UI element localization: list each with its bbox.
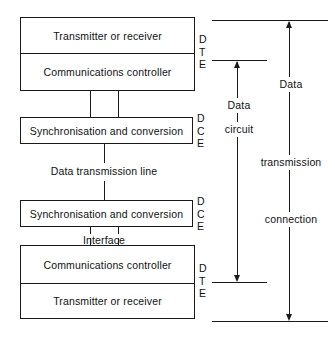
side-label-line: D — [197, 112, 205, 125]
bracket-data-transmission-bottom-tick — [212, 321, 328, 322]
bracket-data-circuit-bottom-tick — [212, 282, 267, 283]
side-label-line: E — [199, 58, 207, 71]
connector-interface-lower-right — [118, 238, 119, 245]
connector-interface-upper-left — [90, 227, 91, 234]
bracket-data-transmission-line-1 — [289, 22, 290, 77]
side-label-line: T — [199, 275, 207, 288]
bracket-data-transmission-line-3 — [289, 170, 290, 212]
cell-label: Transmitter or receiver — [53, 30, 162, 42]
label-data-transmission-line: Data transmission line — [28, 165, 180, 177]
side-label-line: T — [199, 46, 207, 59]
side-label-line: C — [197, 208, 205, 221]
block-dte-bottom: Communications controller Transmitter or… — [20, 245, 195, 319]
cell-transmitter-or-receiver-bottom: Transmitter or receiver — [21, 283, 194, 318]
connector-interface-upper-right — [118, 227, 119, 234]
cell-label: Communications controller — [43, 66, 171, 78]
side-label-line: D — [197, 195, 205, 208]
cell-communications-controller-top: Communications controller — [21, 53, 194, 90]
bracket-data-circuit-bottom-arrowhead — [234, 275, 240, 282]
connector-dte-to-dce-right — [118, 91, 119, 117]
side-label-line: C — [197, 125, 205, 138]
connector-transmission-line-upper — [104, 144, 105, 163]
bracket-data-transmission-line-4 — [289, 227, 290, 315]
side-label-dte-top: D T E — [199, 33, 207, 71]
side-label-line: E — [197, 220, 205, 233]
bracket-data-transmission-line-2 — [289, 92, 290, 155]
cell-label: Communications controller — [43, 259, 171, 271]
cell-synchronisation-and-conversion-bottom: Synchronisation and conversion — [21, 201, 192, 226]
block-dce-top: Synchronisation and conversion — [20, 117, 193, 144]
side-label-dce-bottom: D C E — [197, 195, 205, 233]
cell-label: Synchronisation and conversion — [30, 125, 183, 137]
bracket-data-transmission-label-line-2: transmission — [254, 155, 328, 169]
bracket-data-circuit-line-upper — [237, 62, 238, 98]
side-label-line: E — [197, 137, 205, 150]
connector-transmission-line-lower — [104, 181, 105, 200]
side-label-line: D — [199, 33, 207, 46]
bracket-data-transmission-bottom-arrowhead — [286, 314, 292, 321]
cell-synchronisation-and-conversion-top: Synchronisation and conversion — [21, 118, 192, 143]
block-dce-bottom: Synchronisation and conversion — [20, 200, 193, 227]
cell-communications-controller-bottom: Communications controller — [21, 246, 194, 283]
bracket-data-transmission-top-tick — [212, 20, 328, 21]
bracket-data-circuit-label-line-1: Data — [213, 98, 265, 112]
cell-transmitter-or-receiver-top: Transmitter or receiver — [21, 18, 194, 53]
bracket-data-transmission-label-line-1: Data — [264, 77, 318, 91]
bracket-data-circuit-label-line-2: circuit — [213, 122, 265, 136]
bracket-data-circuit-line-middle — [237, 113, 238, 122]
block-dte-top: Transmitter or receiver Communications c… — [20, 17, 195, 91]
cell-label: Transmitter or receiver — [53, 295, 162, 307]
side-label-line: D — [199, 262, 207, 275]
connector-dte-to-dce-left — [90, 91, 91, 117]
side-label-line: E — [199, 287, 207, 300]
bracket-data-transmission-label-line-3: connection — [256, 212, 326, 226]
diagram-canvas: Transmitter or receiver Communications c… — [0, 0, 335, 338]
connector-interface-lower-left — [90, 238, 91, 245]
side-label-dce-top: D C E — [197, 112, 205, 150]
cell-label: Synchronisation and conversion — [30, 208, 183, 220]
side-label-dte-bottom: D T E — [199, 262, 207, 300]
bracket-data-circuit-line-lower — [237, 137, 238, 276]
